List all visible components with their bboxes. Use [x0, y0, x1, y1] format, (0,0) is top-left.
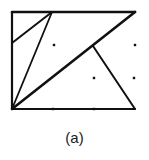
grid-dots: [52, 44, 136, 110]
grid-dot: [93, 77, 95, 79]
main-diagonal-line: [12, 12, 135, 109]
figure-lines: [12, 12, 135, 109]
grid-dot: [93, 108, 95, 110]
grid-dot: [53, 44, 55, 46]
grid-dot: [133, 77, 135, 79]
grid-dot: [52, 108, 54, 110]
grid-dot: [134, 44, 136, 46]
figure-caption: (a): [0, 129, 149, 147]
branch-line-line: [93, 46, 135, 109]
